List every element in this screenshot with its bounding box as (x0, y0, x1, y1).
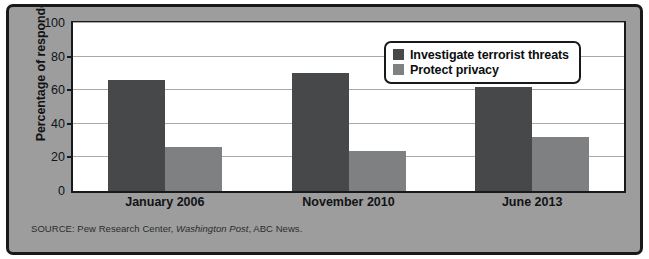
y-tick-label: 60 (21, 83, 65, 97)
source-prefix: SOURCE: Pew Research Center, (31, 223, 176, 234)
bar (532, 137, 589, 191)
source-italic: Washington Post (176, 223, 248, 234)
x-axis-label: January 2006 (125, 195, 204, 209)
chart-frame: Percentage of respondents 020406080100 J… (6, 4, 643, 255)
chart-legend: Investigate terrorist threatsProtect pri… (384, 41, 581, 84)
legend-label: Protect privacy (410, 63, 499, 77)
x-axis-label: November 2010 (302, 195, 394, 209)
y-tick-label: 100 (21, 16, 65, 30)
bar (475, 87, 532, 191)
chart-figure: Percentage of respondents 020406080100 J… (0, 0, 649, 259)
y-tick-label: 80 (21, 50, 65, 64)
legend-swatch (393, 64, 404, 75)
y-tick-label: 40 (21, 117, 65, 131)
gridline (73, 22, 624, 23)
legend-item: Protect privacy (393, 62, 569, 77)
legend-item: Investigate terrorist threats (393, 47, 569, 62)
bar (108, 80, 165, 191)
source-note: SOURCE: Pew Research Center, Washington … (31, 223, 302, 234)
x-axis-label: June 2013 (502, 195, 562, 209)
y-tick-label: 20 (21, 150, 65, 164)
y-tick-label: 0 (21, 184, 65, 198)
legend-label: Investigate terrorist threats (410, 48, 569, 62)
bar (165, 147, 222, 191)
legend-swatch (393, 49, 404, 60)
bar (292, 73, 349, 191)
x-axis-labels: January 2006November 2010June 2013 (71, 195, 626, 217)
source-suffix: , ABC News. (248, 223, 302, 234)
bar (349, 151, 406, 191)
y-axis-ticks: 020406080100 (19, 21, 65, 193)
